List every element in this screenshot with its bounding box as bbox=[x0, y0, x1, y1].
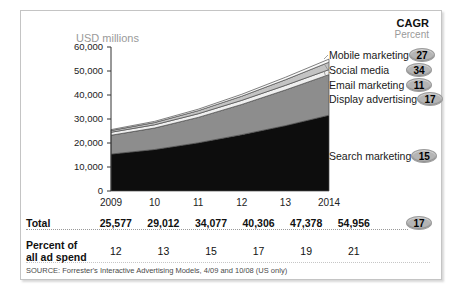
legend-label: Search marketing bbox=[329, 150, 411, 162]
cagr-badge: 11 bbox=[406, 78, 432, 92]
cagr-badge: 27 bbox=[409, 48, 435, 62]
percent-value: 13 bbox=[140, 245, 188, 257]
total-value: 40,306 bbox=[235, 217, 283, 229]
x-tick-label: 11 bbox=[176, 197, 220, 208]
total-value: 54,956 bbox=[330, 217, 378, 229]
y-tick-label: 20,000 bbox=[53, 138, 103, 148]
x-tick-label: 2014 bbox=[307, 197, 351, 208]
total-cagr-badge: 17 bbox=[406, 216, 432, 230]
forecast-chart-panel: USD millions CAGR Percent 010,00020,0003… bbox=[20, 10, 442, 280]
legend-item-display-advertising: Display advertising 17 bbox=[329, 92, 432, 106]
percent-value: 17 bbox=[235, 245, 283, 257]
total-value: 34,077 bbox=[187, 217, 235, 229]
percent-value: 15 bbox=[187, 245, 235, 257]
total-value: 29,012 bbox=[140, 217, 188, 229]
percent-value: 19 bbox=[282, 245, 330, 257]
cagr-badge: 15 bbox=[411, 149, 437, 163]
percent-row-label-line1: Percent of bbox=[26, 239, 87, 251]
x-tick-label: 12 bbox=[220, 197, 264, 208]
legend-item-search-marketing: Search marketing 15 bbox=[329, 149, 432, 163]
total-value: 47,378 bbox=[282, 217, 330, 229]
percent-row-label: Percent of all ad spend bbox=[26, 239, 87, 263]
cagr-badge: 34 bbox=[406, 63, 432, 77]
legend-label: Display advertising bbox=[329, 93, 417, 105]
leader-line-mobile bbox=[324, 55, 328, 59]
legend-item-social-media: Social media 34 bbox=[329, 63, 432, 77]
y-tick-label: 10,000 bbox=[53, 162, 103, 172]
x-tick-label: 13 bbox=[263, 197, 307, 208]
source-citation: SOURCE: Forrester's Interactive Advertis… bbox=[26, 266, 287, 275]
percent-value: 21 bbox=[330, 245, 378, 257]
cagr-subtitle: Percent bbox=[329, 29, 429, 41]
total-row-separator bbox=[26, 229, 408, 230]
y-tick-label: 0 bbox=[53, 186, 103, 196]
legend-label: Social media bbox=[329, 64, 389, 76]
screenshot-root: { "header": { "cagr_title": "CAGR", "cag… bbox=[0, 0, 457, 289]
x-tick-label: 10 bbox=[133, 197, 177, 208]
y-tick-label: 40,000 bbox=[53, 90, 103, 100]
x-tick-label: 2009 bbox=[89, 197, 133, 208]
total-row-values: 25,577 29,012 34,077 40,306 47,378 54,95… bbox=[92, 217, 378, 229]
percent-row-values: 12 13 15 17 19 21 bbox=[92, 245, 378, 257]
cagr-title: CAGR bbox=[329, 17, 429, 29]
y-tick-label: 50,000 bbox=[53, 66, 103, 76]
cagr-column-header: CAGR Percent bbox=[329, 17, 429, 41]
cagr-badge: 17 bbox=[417, 92, 443, 106]
source-separator bbox=[26, 262, 430, 263]
stacked-area-chart bbox=[105, 44, 339, 196]
total-row-label: Total bbox=[26, 217, 50, 229]
legend-item-email-marketing: Email marketing 11 bbox=[329, 78, 432, 92]
y-tick-label: 30,000 bbox=[53, 114, 103, 124]
legend-label: Email marketing bbox=[329, 79, 404, 91]
total-value: 25,577 bbox=[92, 217, 140, 229]
legend-label: Mobile marketing bbox=[329, 49, 409, 61]
y-tick-label: 60,000 bbox=[53, 42, 103, 52]
legend-item-mobile-marketing: Mobile marketing 27 bbox=[329, 48, 432, 62]
percent-value: 12 bbox=[92, 245, 140, 257]
